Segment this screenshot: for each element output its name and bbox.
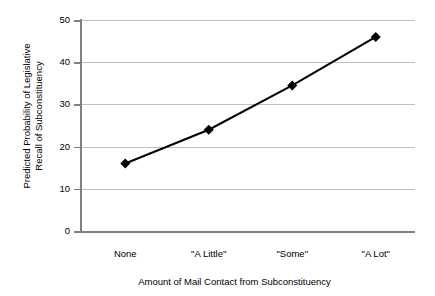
x-axis-title: Amount of Mail Contact from Subconstitue… bbox=[0, 276, 435, 287]
y-axis-tick-label: 20 bbox=[50, 142, 70, 152]
gridline bbox=[81, 20, 415, 21]
x-axis-tick-label: "Some" bbox=[276, 248, 308, 260]
x-axis-tick-label: None bbox=[114, 248, 137, 260]
x-axis-tick-labels: None"A Little""Some""A Lot" bbox=[0, 248, 435, 264]
y-axis-title-line-2: Recall of Subconstituency bbox=[33, 61, 45, 170]
gridline bbox=[81, 62, 415, 63]
x-axis-line bbox=[81, 231, 415, 233]
y-axis-tick-label: 50 bbox=[50, 15, 70, 25]
gridline bbox=[81, 104, 415, 105]
y-axis-title: Predicted Probability of Legislative Rec… bbox=[16, 0, 50, 232]
y-axis-line bbox=[80, 19, 82, 232]
y-axis-tick-label: 30 bbox=[50, 99, 70, 109]
y-axis-title-line-1: Predicted Probability of Legislative bbox=[21, 43, 33, 188]
y-axis-tick-label: 10 bbox=[50, 184, 70, 194]
x-axis-tick-label: "A Lot" bbox=[362, 248, 390, 260]
gridline bbox=[81, 147, 415, 148]
plot-area bbox=[81, 20, 415, 231]
y-axis-tick-label: 0 bbox=[50, 226, 70, 236]
gridline bbox=[81, 189, 415, 190]
chart-container: Predicted Probability of Legislative Rec… bbox=[0, 0, 435, 296]
x-axis-tick-label: "A Little" bbox=[191, 248, 226, 260]
y-axis-tick-label: 40 bbox=[50, 57, 70, 67]
